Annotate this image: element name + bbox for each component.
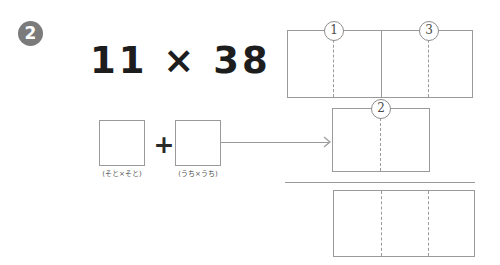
divider-dashed-bottom-left: [381, 191, 382, 256]
arrow-right-icon: [322, 136, 332, 148]
answer-box-soto[interactable]: [99, 120, 145, 166]
step-marker-1: 1: [324, 21, 344, 41]
sum-separator-line: [285, 182, 475, 183]
arrow-shaft: [221, 142, 329, 143]
divider-solid-top: [381, 31, 382, 97]
answer-rectangle-top[interactable]: [287, 30, 473, 98]
step-marker-2: 2: [371, 99, 391, 119]
caption-uchi: (うち×うち): [163, 168, 233, 178]
answer-box-uchi[interactable]: [175, 120, 221, 166]
answer-rectangle-bottom[interactable]: [333, 190, 475, 257]
problem-number-badge: 2: [18, 21, 43, 46]
caption-soto: (そと×そと): [87, 168, 157, 178]
step-marker-3: 3: [419, 21, 439, 41]
divider-dashed-bottom-right: [428, 191, 429, 256]
plus-operator: +: [153, 130, 175, 159]
worksheet-page: 2 11 × 38 = 1 3 2 + (そと×そと) (うち×うち): [0, 0, 500, 265]
